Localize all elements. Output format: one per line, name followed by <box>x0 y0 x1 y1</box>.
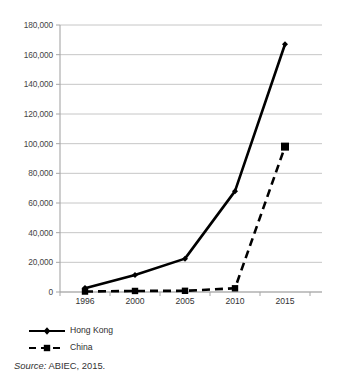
marker-hong-kong-2015 <box>282 41 288 47</box>
y-tick-label: 60,000 <box>28 199 53 208</box>
legend-label-hong-kong: Hong Kong <box>70 325 113 336</box>
marker-china-1996 <box>82 288 88 294</box>
legend-item-1: China <box>28 339 228 356</box>
x-tick-label: 2005 <box>175 296 194 307</box>
marker-hong-kong-2000 <box>132 272 138 278</box>
chart-figure: 020,00040,00060,00080,000100,000120,0001… <box>0 0 342 381</box>
data-series-layer <box>82 41 289 294</box>
plot-area <box>60 25 322 292</box>
source-label: Source: <box>14 360 46 371</box>
legend-item-0: Hong Kong <box>28 322 228 339</box>
plot-svg <box>60 25 322 292</box>
marker-china-2010 <box>232 285 238 291</box>
source-note: Source: ABIEC, 2015. <box>14 360 105 372</box>
x-axis: 19962000200520102015 <box>0 296 342 312</box>
marker-china-2015 <box>281 143 289 151</box>
x-tick-label: 2015 <box>275 296 294 307</box>
y-tick-label: 160,000 <box>24 50 53 59</box>
marker-china-2000 <box>132 288 138 294</box>
series-line-hong-kong <box>85 44 285 288</box>
series-line-china <box>85 147 285 292</box>
chart-legend: Hong Kong China <box>28 322 228 356</box>
legend-label-china: China <box>70 342 92 353</box>
marker-china-2005 <box>182 288 188 294</box>
y-tick-label: 140,000 <box>24 80 53 89</box>
x-tick-label: 2000 <box>125 296 144 307</box>
source-text: ABIEC, 2015. <box>46 360 105 371</box>
y-tick-label: 20,000 <box>28 258 53 267</box>
y-tick-label: 40,000 <box>28 228 53 237</box>
y-tick-label: 100,000 <box>24 139 53 148</box>
y-tick-label: 80,000 <box>28 169 53 178</box>
legend-line-icon-china <box>28 342 66 354</box>
x-tick-label: 2010 <box>225 296 244 307</box>
x-tick-label: 1996 <box>75 296 94 307</box>
y-tick-label: 180,000 <box>24 21 53 30</box>
legend-line-icon-hong-kong <box>28 325 66 337</box>
y-tick-label: 120,000 <box>24 110 53 119</box>
